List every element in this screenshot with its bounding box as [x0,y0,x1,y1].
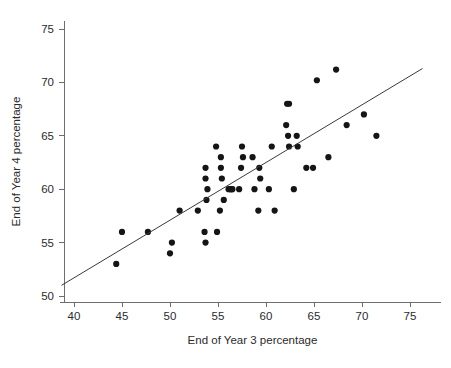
data-point [255,207,261,213]
data-points-group [113,66,379,267]
data-point [204,186,210,192]
data-point [238,165,244,171]
data-point [373,133,379,139]
data-point [201,229,207,235]
data-point [202,175,208,181]
data-point [240,154,246,160]
data-point [272,207,278,213]
x-tick-label: 65 [308,310,321,322]
y-axis-ticks: 505560657075 [41,23,64,302]
data-point [217,207,223,213]
data-point [266,186,272,192]
data-point [167,250,173,256]
data-point [239,143,245,149]
scatter-plot-figure: 4045505560657075 505560657075 End of Yea… [0,0,451,368]
data-point [221,197,227,203]
x-axis-title: End of Year 3 percentage [188,334,318,346]
axes-group [60,21,441,302]
data-point [113,261,119,267]
x-tick-label: 60 [260,310,273,322]
regression-line [62,69,423,286]
data-point [202,165,208,171]
x-tick-label: 55 [212,310,225,322]
page-footer-area [0,356,451,368]
y-tick-label: 50 [41,290,54,302]
data-point [213,143,219,149]
data-point [325,154,331,160]
data-point [219,175,225,181]
data-point [218,165,224,171]
data-point [214,229,220,235]
x-tick-label: 70 [356,310,369,322]
data-point [283,122,289,128]
data-point [286,101,292,107]
data-point [229,186,235,192]
data-point [314,77,320,83]
data-point [251,186,257,192]
data-point [269,143,275,149]
data-point [236,186,242,192]
y-tick-label: 55 [41,237,54,249]
data-point [294,133,300,139]
x-tick-label: 45 [116,310,129,322]
y-axis-title: End of Year 4 percentage [10,97,22,227]
y-tick-label: 60 [41,183,54,195]
data-point [202,240,208,246]
data-point [333,66,339,72]
data-point [119,229,125,235]
x-tick-label: 50 [164,310,177,322]
y-tick-label: 70 [41,76,54,88]
data-point [361,111,367,117]
y-tick-label: 65 [41,130,54,142]
data-point [169,240,175,246]
data-point [249,154,255,160]
data-point [218,154,224,160]
data-point [257,175,263,181]
x-axis-ticks: 4045505560657075 [68,302,417,322]
y-tick-label: 75 [41,23,54,35]
x-tick-label: 40 [68,310,81,322]
data-point [303,165,309,171]
x-tick-label: 75 [404,310,417,322]
plot-canvas: 4045505560657075 505560657075 End of Yea… [0,0,451,368]
data-point [310,165,316,171]
data-point [195,207,201,213]
data-point [344,122,350,128]
data-point [285,133,291,139]
data-point [291,186,297,192]
